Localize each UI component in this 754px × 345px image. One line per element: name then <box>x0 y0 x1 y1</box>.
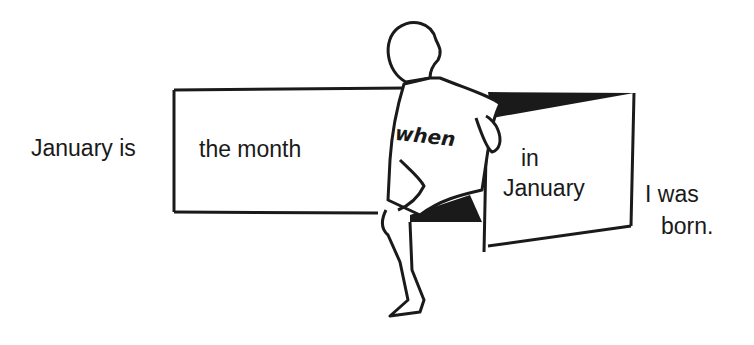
left-box-text: the month <box>199 138 301 161</box>
legs <box>383 210 425 316</box>
right-box-text-line1: in <box>521 147 539 170</box>
person-figure <box>383 23 501 316</box>
trailing-text-line1: I was <box>645 183 699 206</box>
right-box-shadow-top <box>488 92 634 118</box>
diagram-drawing <box>0 0 754 345</box>
diagram-canvas: January is the month when in January I w… <box>0 0 754 345</box>
trailing-text-line2: born. <box>661 215 713 238</box>
head <box>388 23 440 82</box>
right-box-text-line2: January <box>503 177 585 200</box>
left-text: January is <box>31 137 136 160</box>
